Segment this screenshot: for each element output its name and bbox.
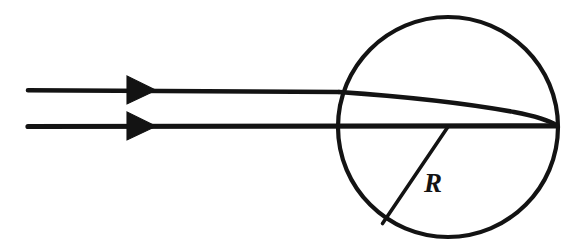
- radius-label: R: [423, 168, 442, 198]
- arrowhead-right-icon: [127, 112, 156, 140]
- upper-ray-refracted: [339, 92, 557, 125]
- lower-ray: [28, 126, 556, 127]
- arrowhead-right-icon: [127, 76, 156, 104]
- figure-canvas: R: [0, 0, 587, 252]
- upper-ray: [28, 90, 339, 92]
- optics-figure: R: [0, 0, 587, 252]
